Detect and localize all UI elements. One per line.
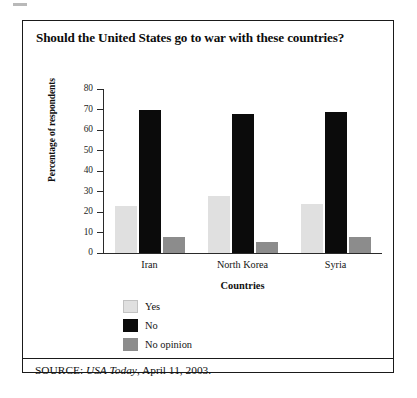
source-divider [23,358,393,359]
x-axis-line [103,253,382,254]
y-tick-label-50: 50 [67,146,93,155]
source-note: SOURCE: USA Today, April 11, 2003. [35,364,211,376]
bar-syria-no-opinion [349,237,371,253]
bar-syria-no [325,112,347,253]
figure-page: Should the United States go to war with … [0,0,417,398]
legend-item-no: No [123,316,192,335]
scan-artifact [13,3,27,6]
legend-label: Yes [145,301,160,312]
plot-area: Percentage of respondents 01020304050607… [23,61,392,276]
bars-layer [103,89,382,253]
legend-swatch-icon-no-opinion [123,338,138,351]
bar-north-korea-no [232,114,254,253]
source-publication: USA Today [86,364,137,376]
y-tick-label-60: 60 [67,125,93,134]
legend-swatch-icon-yes [123,300,138,313]
legend-swatch-icon-no [123,319,138,332]
legend-item-yes: Yes [123,297,192,316]
y-axis-label: Percentage of respondents [47,60,57,200]
legend-item-no-opinion: No opinion [123,335,192,354]
figure-frame: Should the United States go to war with … [22,20,394,373]
y-tick-label-20: 20 [67,207,93,216]
source-prefix: SOURCE: [35,364,86,376]
x-tick-label-syria: Syria [289,259,382,270]
bar-iran-no-opinion [163,237,185,253]
figure-title: Should the United States go to war with … [36,30,384,46]
bar-north-korea-yes [208,196,230,253]
legend-label: No opinion [145,339,192,350]
y-tick-label-70: 70 [67,105,93,114]
y-tick-label-10: 10 [67,228,93,237]
x-tick-label-north-korea: North Korea [196,259,289,270]
bar-iran-no [139,110,161,254]
source-suffix: , April 11, 2003. [137,364,211,376]
y-tick-label-0: 0 [67,248,93,257]
bar-north-korea-no-opinion [256,242,278,253]
bar-syria-yes [301,204,323,253]
bar-iran-yes [115,206,137,253]
legend-label: No [145,320,158,331]
y-tick-label-40: 40 [67,166,93,175]
x-tick-label-iran: Iran [103,259,196,270]
y-tick-label-80: 80 [67,84,93,93]
x-axis-label: Countries [103,280,382,291]
chart-legend: YesNoNo opinion [123,297,192,354]
y-tick-label-30: 30 [67,187,93,196]
